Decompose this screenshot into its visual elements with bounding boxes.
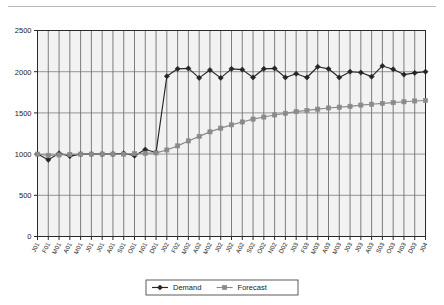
x-tick-label: M01 xyxy=(72,241,84,255)
x-tick-label: J01 xyxy=(30,241,41,254)
y-tick-label: 2000 xyxy=(15,68,32,77)
x-tick-label: J02 xyxy=(159,241,170,254)
x-tick-label: A02 xyxy=(234,241,246,255)
x-tick-label: D02 xyxy=(277,241,289,255)
y-tick-label: 1000 xyxy=(15,150,32,159)
chart-legend[interactable]: DemandForecast xyxy=(146,280,298,295)
chart-container: 05001000150020002500 J01F01M01A01M01J01J… xyxy=(0,0,444,305)
x-tick-label: J04 xyxy=(418,241,429,254)
legend-label: Forecast xyxy=(238,283,268,292)
x-axis-tick-labels: J01F01M01A01M01J01J01A01S01O01N01D01J02F… xyxy=(30,237,429,256)
y-axis-tick-labels: 05001000150020002500 xyxy=(15,26,38,241)
x-tick-label: J03 xyxy=(342,241,353,254)
x-tick-label: D03 xyxy=(406,241,418,255)
x-tick-label: D01 xyxy=(148,241,160,255)
x-tick-label: O02 xyxy=(255,241,267,255)
x-tick-label: M01 xyxy=(50,241,62,255)
x-tick-label: A01 xyxy=(105,241,117,255)
x-tick-label: J02 xyxy=(213,241,224,254)
y-tick-label: 500 xyxy=(19,191,32,200)
x-tick-label: M02 xyxy=(201,241,213,255)
x-tick-label: N03 xyxy=(396,241,408,255)
x-tick-label: J01 xyxy=(84,241,95,254)
y-tick-label: 2500 xyxy=(15,26,32,35)
x-tick-label: M03 xyxy=(331,241,343,255)
x-tick-label: A03 xyxy=(363,241,375,255)
demand-forecast-line-chart: 05001000150020002500 J01F01M01A01M01J01J… xyxy=(0,0,444,305)
legend-label: Demand xyxy=(173,283,201,292)
y-tick-label: 0 xyxy=(27,232,31,241)
x-tick-label: O03 xyxy=(385,241,397,255)
x-tick-label: M02 xyxy=(180,241,192,255)
x-tick-label: O01 xyxy=(126,241,138,255)
x-tick-label: J03 xyxy=(288,241,299,254)
y-tick-label: 1500 xyxy=(15,109,32,118)
x-tick-label: N02 xyxy=(266,241,278,255)
x-tick-label: N01 xyxy=(137,241,149,255)
x-tick-label: M03 xyxy=(309,241,321,255)
